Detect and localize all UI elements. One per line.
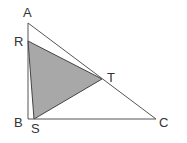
shaded-triangle-rst — [28, 41, 102, 119]
label-t: T — [107, 70, 115, 85]
triangle-diagram: A R T B S C — [0, 0, 187, 143]
label-c: C — [159, 115, 168, 130]
label-b: B — [14, 115, 23, 130]
label-a: A — [23, 5, 32, 20]
label-r: R — [14, 34, 23, 49]
label-s: S — [31, 121, 40, 136]
